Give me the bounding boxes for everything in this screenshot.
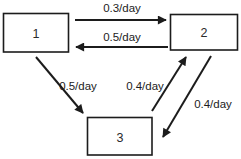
compartment-diagram: 1 2 3 0.3/day 0.5/day 0.5/day 0.4/day 0.…: [0, 0, 241, 159]
edge-2-1-rate-label: 0.5/day: [103, 31, 141, 43]
edge-2-3-rate-label: 0.4/day: [194, 98, 232, 110]
diagram-canvas: 1 2 3 0.3/day 0.5/day 0.5/day 0.4/day 0.…: [0, 0, 241, 159]
edge-1-3-rate-label: 0.5/day: [59, 80, 97, 92]
edge-1-2-rate-label: 0.3/day: [103, 2, 141, 14]
node-3-label: 3: [117, 131, 124, 145]
node-2-label: 2: [201, 26, 208, 40]
arrow-2-to-3: [163, 56, 211, 137]
edge-3-2-rate-label: 0.4/day: [126, 80, 164, 92]
node-1-label: 1: [33, 27, 40, 41]
